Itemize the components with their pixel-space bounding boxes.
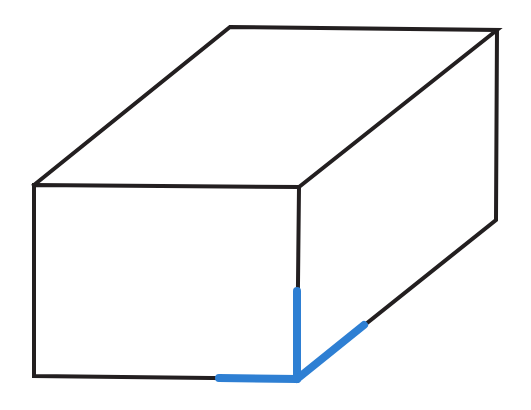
highlight-depth-edge	[297, 325, 364, 379]
top-face	[34, 27, 497, 187]
highlight-bottom-edge	[219, 378, 297, 379]
right-face	[297, 30, 497, 379]
front-face	[34, 185, 299, 379]
prism-drawing	[0, 0, 531, 410]
prism-diagram: Box with three edges meeting at the fron…	[0, 0, 531, 410]
